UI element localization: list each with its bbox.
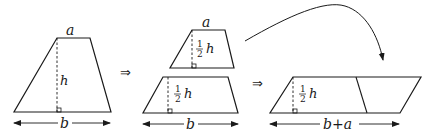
var-h: h — [309, 86, 317, 101]
frac-num: 1 — [197, 39, 203, 49]
step2-cut-pieces-group: a 1 2 h 1 2 h b — [143, 14, 238, 132]
step3-parallelogram-group: 1 2 h b+a — [270, 77, 421, 132]
step1-trapezoid-group: a h b — [14, 22, 111, 131]
half-h-label: 1 2 h — [299, 84, 317, 104]
var-h: h — [206, 41, 214, 56]
base-label-b: b — [60, 115, 69, 131]
bottom-piece-half-h: 1 2 h — [174, 84, 192, 104]
trapezoid-area-diagram: a h b ⇒ a 1 2 h 1 2 h b ⇒ — [0, 0, 429, 137]
divider-line — [356, 77, 367, 113]
implies-arrow-1: ⇒ — [120, 65, 131, 80]
top-label-a: a — [66, 22, 74, 38]
var-h: h — [184, 86, 192, 101]
base-label-b: b — [186, 116, 195, 132]
frac-den: 2 — [175, 94, 181, 104]
top-piece-label-a: a — [202, 14, 210, 30]
curved-move-arrow-icon — [245, 5, 383, 60]
implies-arrow-2: ⇒ — [252, 76, 263, 91]
frac-den: 2 — [197, 49, 203, 59]
frac-num: 1 — [300, 84, 306, 94]
top-piece-half-h: 1 2 h — [196, 39, 214, 59]
base-label-b-plus-a: b+a — [323, 116, 352, 132]
frac-den: 2 — [300, 94, 306, 104]
frac-num: 1 — [175, 84, 181, 94]
height-label-h: h — [60, 73, 68, 88]
